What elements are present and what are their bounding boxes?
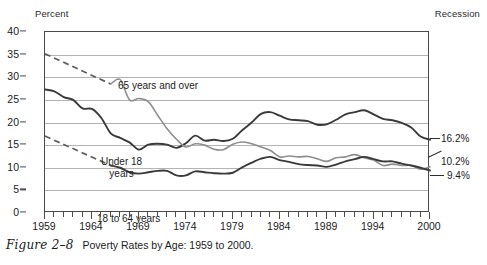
x-tick-1992 (354, 212, 355, 217)
x-tick-1986 (298, 212, 299, 217)
x-tick-label-2000: 2000 (417, 220, 440, 232)
x-tick-1983 (269, 212, 270, 217)
x-tick-1978 (222, 212, 223, 217)
end-value-18-to-64: 9.4% (447, 170, 470, 181)
x-tick-1977 (213, 212, 214, 217)
x-tick-1980 (241, 212, 242, 217)
series-label-65-and-over: 65 years and over (118, 80, 198, 92)
figure-number: Figure 2–8 (6, 238, 74, 252)
y-axis-title: Percent (35, 8, 68, 19)
x-tick-1960 (53, 212, 54, 217)
x-tick-1961 (63, 212, 64, 217)
y-tick-mark-5 (20, 189, 26, 190)
x-tick-1974 (185, 212, 186, 219)
x-tick-1968 (129, 212, 130, 217)
y-tick-mark-40 (20, 30, 26, 31)
x-tick-label-1969: 1969 (126, 220, 149, 232)
x-tick-1996 (391, 212, 392, 217)
y-tick-label-20: 20 (7, 116, 19, 128)
x-tick-1959 (44, 212, 45, 219)
y-tick-label-0: 0 (13, 206, 19, 218)
x-tick-1963 (82, 212, 83, 217)
y-tick-mark-15 (20, 144, 26, 145)
y-tick-mark-0 (20, 211, 26, 212)
x-tick-label-1959: 1959 (32, 220, 55, 232)
x-tick-1997 (401, 212, 402, 217)
y-tick-mark-25 (20, 98, 26, 99)
series-label-under-18: Under 18 years (101, 156, 142, 179)
series-path-0 (45, 89, 430, 149)
leader-line-9-4 (430, 175, 444, 176)
y-tick-label-30: 30 (7, 70, 19, 82)
x-tick-1975 (194, 212, 195, 217)
x-tick-1993 (363, 212, 364, 217)
y-tick-label-35: 35 (7, 48, 19, 60)
end-value-65-and-over: 10.2% (441, 156, 469, 167)
x-tick-1979 (232, 212, 233, 219)
figure-caption-text: Poverty Rates by Age: 1959 to 2000. (83, 239, 254, 251)
y-tick-mark-30 (20, 76, 26, 77)
series-lines (45, 32, 430, 213)
x-tick-1973 (175, 212, 176, 217)
x-tick-1970 (147, 212, 148, 217)
x-tick-label-1989: 1989 (314, 220, 337, 232)
x-tick-1987 (307, 212, 308, 217)
x-tick-1964 (91, 212, 92, 219)
x-tick-1962 (72, 212, 73, 217)
y-tick-label-40: 40 (7, 25, 19, 37)
x-tick-1988 (316, 212, 317, 217)
x-tick-label-1979: 1979 (220, 220, 243, 232)
y-tick-label-10: 10 (7, 161, 19, 173)
x-tick-1967 (119, 212, 120, 217)
x-tick-1966 (110, 212, 111, 217)
x-tick-1984 (279, 212, 280, 219)
y-tick-mark-10 (20, 166, 26, 167)
x-tick-1999 (420, 212, 421, 217)
recession-label: Recession (435, 8, 480, 19)
x-tick-label-1974: 1974 (173, 220, 196, 232)
x-tick-1981 (251, 212, 252, 217)
x-tick-1991 (344, 212, 345, 217)
x-tick-1971 (157, 212, 158, 217)
x-tick-1976 (204, 212, 205, 217)
leader-line-16-2 (430, 138, 440, 139)
x-tick-2000 (429, 212, 430, 219)
series-label-under-18-line2: years (109, 168, 133, 179)
x-tick-1995 (382, 212, 383, 217)
series-path-2 (111, 157, 430, 176)
poverty-rates-figure: Percent Recession 0510152025303540 65 ye… (0, 0, 487, 265)
x-tick-label-1984: 1984 (267, 220, 290, 232)
x-tick-label-1964: 1964 (79, 220, 102, 232)
end-value-under-18: 16.2% (441, 133, 469, 144)
plot-area: 65 years and over Under 18 years 18 to 6… (44, 31, 429, 212)
series-label-under-18-line1: Under 18 (101, 156, 142, 167)
x-tick-1990 (335, 212, 336, 217)
x-tick-1965 (100, 212, 101, 217)
x-tick-1985 (288, 212, 289, 217)
y-tick-label-5: 5 (13, 183, 19, 195)
x-tick-1982 (260, 212, 261, 217)
x-tick-1969 (138, 212, 139, 219)
y-tick-mark-35 (20, 53, 26, 54)
y-tick-mark-20 (20, 121, 26, 122)
series-path-1 (111, 79, 430, 169)
x-tick-label-1994: 1994 (361, 220, 384, 232)
dashed-segment-1 (45, 54, 111, 84)
y-axis: 0510152025303540 (0, 31, 44, 212)
x-tick-1989 (326, 212, 327, 219)
figure-caption: Figure 2–8Poverty Rates by Age: 1959 to … (6, 238, 476, 252)
x-tick-1994 (373, 212, 374, 219)
x-tick-1998 (410, 212, 411, 217)
y-tick-label-15: 15 (7, 138, 19, 150)
x-tick-1972 (166, 212, 167, 217)
y-tick-label-25: 25 (7, 93, 19, 105)
